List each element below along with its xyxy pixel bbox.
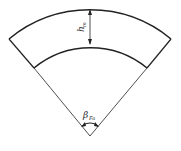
height-label: h m (76, 22, 87, 32)
svg-text:m: m (81, 22, 87, 27)
left-band-edge (9, 39, 34, 68)
left-radial-line (34, 68, 90, 136)
angle-arrow-left-icon (81, 122, 86, 127)
angle-arrow-right-icon (94, 122, 99, 127)
height-arrow-bottom-icon (88, 39, 92, 45)
right-radial-line (90, 68, 147, 136)
angle-label: β (82, 110, 88, 120)
sector-diagram: h m β Fa (0, 0, 181, 151)
angle-label-subscript: Fa (88, 115, 95, 121)
inner-arc (34, 48, 147, 68)
right-band-edge (147, 39, 171, 68)
